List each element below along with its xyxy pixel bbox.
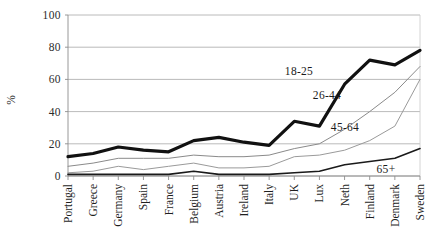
series-lines	[68, 50, 420, 174]
y-tick-label-0: 0	[55, 170, 61, 182]
series-annotation-26-44: 26-44	[313, 89, 341, 101]
x-tick-label-denmark: Denmark	[389, 184, 401, 227]
series-annotation-18-25: 18-25	[285, 65, 313, 77]
x-tick-label-italy: Italy	[263, 184, 276, 205]
x-tick-label-uk: UK	[288, 183, 300, 200]
x-tick-label-spain: Spain	[137, 184, 150, 210]
y-axis-label: %	[5, 95, 17, 105]
line-chart: 020406080100 PortugalGreeceGermanySpainF…	[0, 0, 429, 248]
x-axis-tick-marks	[68, 176, 420, 180]
x-tick-label-belgium: Belgium	[188, 184, 201, 224]
x-tick-label-lux: Lux	[313, 184, 325, 203]
y-axis-tick-labels: 020406080100	[43, 9, 68, 182]
x-tick-label-austria: Austria	[213, 184, 225, 218]
x-tick-label-neth: Neth	[339, 184, 351, 207]
chart-canvas: 020406080100 PortugalGreeceGermanySpainF…	[0, 0, 429, 248]
y-tick-label-100: 100	[43, 9, 61, 21]
x-tick-label-greece: Greece	[87, 184, 99, 217]
x-axis-tick-labels: PortugalGreeceGermanySpainFranceBelgiumA…	[62, 183, 426, 226]
series-annotation-45-64: 45-64	[331, 121, 359, 133]
x-tick-label-germany: Germany	[112, 184, 125, 227]
x-tick-label-france: France	[163, 184, 175, 215]
y-tick-label-20: 20	[49, 138, 61, 150]
y-tick-label-60: 60	[49, 73, 61, 85]
series-line-26-44	[68, 67, 420, 167]
x-tick-label-portugal: Portugal	[62, 184, 75, 223]
series-annotations: 18-2526-4445-6465+	[285, 65, 396, 175]
x-tick-label-finland: Finland	[364, 184, 376, 219]
x-tick-label-ireland: Ireland	[238, 184, 250, 217]
plot-frame	[68, 15, 420, 176]
series-line-65+	[68, 149, 420, 175]
y-tick-label-80: 80	[49, 41, 61, 53]
x-tick-label-sweden: Sweden	[414, 184, 426, 221]
series-line-18-25	[68, 50, 420, 156]
series-annotation-65+: 65+	[377, 163, 396, 175]
y-tick-label-40: 40	[49, 106, 61, 118]
gridlines	[68, 15, 420, 176]
